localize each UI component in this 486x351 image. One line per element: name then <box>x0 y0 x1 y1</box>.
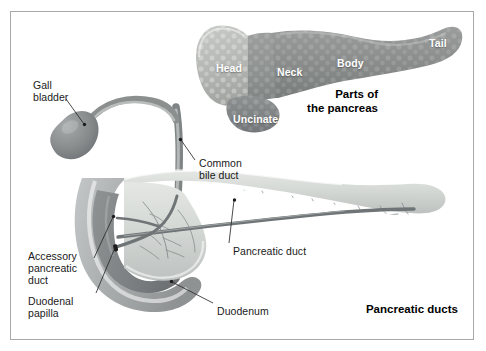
pancreatic-duct-dot <box>233 198 236 201</box>
gall-bladder-shape <box>50 111 98 159</box>
gall-bladder-dot <box>83 123 86 126</box>
organ-label-head: Head <box>216 62 242 74</box>
panel-title-pancreatic-ducts: Pancreatic ducts <box>268 303 458 317</box>
panel-title-parts-of-the-pancreas: Parts of the pancreas <box>268 88 378 115</box>
organ-label-body: Body <box>337 57 364 69</box>
callout-label-gall-bladder: Gall bladder <box>33 79 68 103</box>
callout-label-pancreatic-duct: Pancreatic duct <box>233 245 306 257</box>
callout-label-duodenum: Duodenum <box>217 305 269 317</box>
callout-label-accessory-pancreatic-duct: Accessory pancreatic duct <box>28 250 77 287</box>
callout-label-duodenal-papilla: Duodenal papilla <box>28 295 73 319</box>
pancreas-figure: Head Neck Body Tail Uncinate Parts of th… <box>0 0 486 351</box>
duodenum-dot <box>170 280 173 283</box>
common-bile-duct-dot <box>179 138 182 141</box>
organ-label-tail: Tail <box>429 37 447 49</box>
organ-label-neck: Neck <box>277 66 303 78</box>
callout-label-common-bile-duct: Common bile duct <box>199 157 242 181</box>
accessory-duct-dot <box>112 215 115 218</box>
cystic-duct-shape <box>88 99 176 122</box>
pancreas-lower-shape <box>124 170 446 280</box>
